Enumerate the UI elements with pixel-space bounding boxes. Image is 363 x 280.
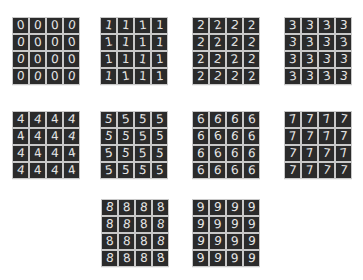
digit-sample-tile: 1 (135, 18, 150, 33)
digit-glyph: 8 (122, 200, 130, 215)
digit-glyph: 2 (247, 35, 257, 50)
digit-glyph: 7 (339, 112, 349, 127)
digit-sample-tile: 5 (118, 163, 133, 178)
digit-glyph: 8 (122, 217, 132, 232)
digit-sample-tile: 0 (30, 69, 45, 84)
digit-glyph: 9 (195, 251, 205, 266)
digit-sample-tile: 3 (336, 69, 351, 84)
digit-sample-tile: 4 (30, 163, 45, 178)
digit-sample-tile: 8 (119, 200, 134, 215)
digit-sample-tile: 2 (227, 52, 242, 67)
digit-grid-9: 9999999999999999 (192, 199, 260, 268)
digit-glyph: 1 (121, 35, 131, 50)
digit-sample-tile: 2 (244, 35, 259, 50)
digit-sample-tile: 8 (119, 217, 134, 232)
digit-sample-tile: 2 (193, 69, 208, 84)
digit-sample-tile: 4 (64, 163, 79, 178)
digit-glyph: 6 (247, 163, 256, 178)
digit-sample-tile: 8 (153, 217, 168, 232)
digit-glyph: 9 (230, 217, 239, 232)
digit-sample-tile: 8 (153, 251, 168, 266)
digit-glyph: 5 (138, 163, 148, 178)
digit-grid-2: 2222222222222222 (192, 17, 260, 86)
digit-glyph: 7 (339, 129, 347, 144)
digit-glyph: 9 (213, 251, 223, 266)
digit-glyph: 6 (213, 163, 222, 178)
digit-glyph: 8 (139, 251, 147, 266)
digit-sample-tile: 2 (193, 18, 208, 33)
digit-sample-tile: 6 (210, 129, 225, 144)
digit-glyph: 6 (212, 112, 222, 127)
digit-glyph: 4 (50, 146, 58, 161)
digit-sample-tile: 7 (302, 112, 317, 127)
digit-sample-tile: 0 (47, 35, 62, 50)
digit-sample-tile: 7 (302, 163, 317, 178)
digit-glyph: 3 (339, 52, 348, 67)
digit-sample-tile: 6 (193, 129, 208, 144)
digit-sample-tile: 2 (210, 18, 225, 33)
digit-glyph: 4 (16, 129, 26, 144)
digit-sample-tile: 0 (47, 52, 62, 67)
digit-sample-tile: 5 (101, 112, 116, 127)
digit-glyph: 6 (196, 163, 205, 178)
digit-glyph: 1 (138, 52, 148, 67)
digit-sample-tile: 6 (227, 112, 242, 127)
digit-sample-tile: 3 (319, 35, 334, 50)
digit-sample-tile: 3 (336, 18, 351, 33)
digit-sample-tile: 3 (302, 35, 317, 50)
digit-glyph: 0 (16, 69, 24, 84)
digit-sample-tile: 9 (210, 234, 225, 249)
digit-glyph: 2 (247, 18, 255, 33)
digit-glyph: 6 (196, 129, 204, 144)
digit-sample-tile: 9 (193, 251, 208, 266)
digit-sample-tile: 1 (118, 52, 133, 67)
digit-sample-tile: 2 (227, 18, 242, 33)
digit-glyph: 2 (230, 35, 238, 50)
digit-glyph: 6 (247, 112, 256, 127)
digit-glyph: 4 (33, 163, 41, 178)
digit-sample-tile: 1 (101, 69, 116, 84)
digit-glyph: 5 (138, 129, 147, 144)
digit-glyph: 8 (155, 234, 165, 249)
digit-grid-0: 0000000000000000 (12, 17, 80, 86)
digit-glyph: 1 (138, 69, 147, 84)
digit-sample-tile: 5 (118, 112, 133, 127)
digit-sample-tile: 4 (47, 163, 62, 178)
digit-glyph: 6 (196, 112, 204, 127)
digit-sample-tile: 6 (210, 146, 225, 161)
digit-glyph: 4 (50, 112, 59, 127)
digit-glyph: 5 (103, 146, 113, 161)
digit-sample-tile: 3 (336, 35, 351, 50)
digit-sample-tile: 7 (336, 163, 351, 178)
digit-sample-tile: 1 (152, 52, 167, 67)
digit-glyph: 5 (121, 146, 131, 161)
digit-glyph: 2 (212, 18, 222, 33)
digit-sample-tile: 3 (302, 69, 317, 84)
digit-glyph: 9 (230, 251, 238, 266)
digit-glyph: 9 (196, 200, 205, 215)
digit-sample-tile: 0 (30, 18, 45, 33)
digit-glyph: 9 (213, 217, 223, 232)
digit-sample-tile: 5 (135, 129, 150, 144)
digit-sample-tile: 9 (210, 217, 225, 232)
digit-sample-tile: 5 (152, 146, 167, 161)
digit-glyph: 7 (305, 163, 313, 178)
digit-sample-tile: 4 (30, 146, 45, 161)
digit-sample-tile: 6 (227, 129, 242, 144)
digit-sample-tile: 1 (135, 52, 150, 67)
digit-glyph: 0 (16, 52, 26, 67)
digit-glyph: 9 (247, 251, 256, 266)
digit-glyph: 4 (16, 112, 24, 127)
digit-sample-tile: 3 (336, 52, 351, 67)
digit-sample-tile: 9 (193, 234, 208, 249)
digit-sample-tile: 3 (319, 52, 334, 67)
digit-glyph: 8 (122, 251, 131, 266)
digit-grid-6: 6666666666666666 (192, 111, 260, 180)
digit-sample-tile: 7 (285, 163, 300, 178)
digit-grid-3: 3333333333333333 (284, 17, 352, 86)
digit-sample-tile: 4 (13, 146, 28, 161)
digit-glyph: 8 (156, 217, 165, 232)
digit-sample-tile: 0 (47, 69, 62, 84)
digit-glyph: 3 (305, 69, 313, 84)
digit-sample-tile: 4 (64, 146, 79, 161)
